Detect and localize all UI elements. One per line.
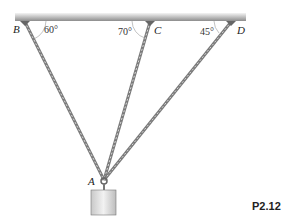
label-a: A [88,175,95,187]
weight [91,190,116,215]
angle-d: 45° [200,26,214,37]
chain-ab [25,22,104,180]
bracket-b [20,21,30,26]
angle-arc-d [214,21,219,33]
angle-arc-c [132,21,145,38]
chain-ac [104,22,150,180]
figure-id: P2.12 [252,200,281,212]
label-d: D [237,24,245,36]
chain-ad [104,22,231,180]
label-b: B [13,23,20,35]
angle-c: 70° [118,26,132,37]
label-c: C [154,24,161,36]
ceiling [15,13,246,21]
angle-b: 60° [44,24,58,35]
